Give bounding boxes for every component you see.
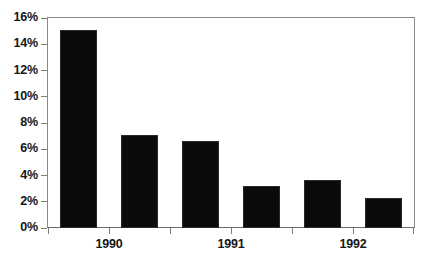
y-tick-label: 12% <box>14 63 38 78</box>
y-tick-label: 10% <box>14 89 38 104</box>
x-tick-mark <box>413 228 414 234</box>
bar <box>365 198 402 228</box>
x-axis-group-label: 1991 <box>217 237 244 251</box>
y-tick-label: 14% <box>14 36 38 51</box>
x-axis-group-label: 1990 <box>95 237 122 251</box>
x-tick-mark <box>109 228 110 234</box>
bar <box>243 186 280 228</box>
y-tick-label: 4% <box>20 168 38 183</box>
y-axis: 0%2%4%6%8%10%12%14%16% <box>0 0 47 265</box>
bar <box>182 141 219 228</box>
y-tick-label: 16% <box>14 10 38 25</box>
y-tick-label: 2% <box>20 194 38 209</box>
x-axis-ticks <box>48 228 414 236</box>
bar <box>121 135 158 228</box>
x-tick-mark <box>353 228 354 234</box>
y-tick-label: 0% <box>20 220 38 235</box>
bar-chart: 0%2%4%6%8%10%12%14%16% 199019911992 <box>0 0 439 265</box>
bar <box>60 30 97 228</box>
y-tick-label: 8% <box>20 115 38 130</box>
x-tick-mark <box>292 228 293 234</box>
x-axis-group-label: 1992 <box>339 237 366 251</box>
bar <box>304 180 341 228</box>
x-axis-labels: 199019911992 <box>48 237 414 257</box>
x-tick-mark <box>231 228 232 234</box>
x-tick-mark <box>48 228 49 234</box>
x-tick-mark <box>170 228 171 234</box>
y-tick-label: 6% <box>20 141 38 156</box>
bars-layer <box>48 18 414 228</box>
